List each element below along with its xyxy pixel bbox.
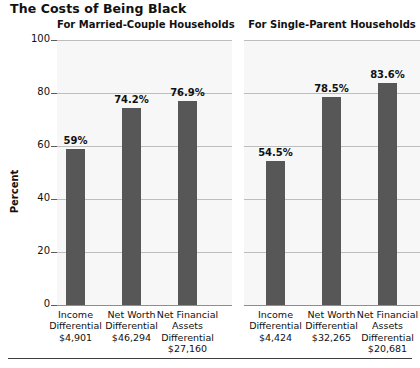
panel-subtitle-single: For Single-Parent Households — [244, 19, 420, 30]
x-axis-category-line: Income — [45, 309, 107, 320]
bar-value-label: 83.6% — [357, 69, 419, 80]
x-axis-category-line: Net Financial — [157, 309, 219, 320]
bar[interactable] — [378, 83, 397, 305]
x-axis-category-line: Differential — [45, 320, 107, 331]
y-tick-label-80: 80 — [14, 86, 50, 97]
x-axis-category-line: Differential — [157, 332, 219, 343]
x-axis-category-label: Net FinancialAssetsDifferential$20,681 — [357, 309, 419, 355]
x-axis-category-line: Differential — [301, 320, 363, 331]
bar[interactable] — [66, 149, 85, 305]
y-tick-label-100: 100 — [14, 33, 50, 44]
x-axis-category-line: $46,294 — [101, 332, 163, 343]
x-axis-category-line: Assets — [357, 320, 419, 331]
gridline-100 — [244, 40, 420, 41]
y-tick-label-0: 0 — [14, 298, 50, 309]
x-axis-category-line: Net Worth — [101, 309, 163, 320]
bottom-divider — [8, 358, 412, 359]
gridline-100 — [57, 40, 232, 41]
x-axis-category-line: Net Worth — [301, 309, 363, 320]
bar[interactable] — [178, 101, 197, 305]
x-axis-category-line: Differential — [245, 320, 307, 331]
x-axis-category-line: $4,901 — [45, 332, 107, 343]
chart-panel-married — [57, 40, 232, 305]
x-axis-category-line: $32,265 — [301, 332, 363, 343]
bar-value-label: 54.5% — [245, 147, 307, 158]
bar[interactable] — [122, 108, 141, 305]
bar-value-label: 76.9% — [157, 87, 219, 98]
x-axis-category-line: $27,160 — [157, 343, 219, 354]
x-axis-category-line: $20,681 — [357, 343, 419, 354]
bar[interactable] — [322, 97, 341, 305]
panel-subtitle-married: For Married-Couple Households — [57, 19, 232, 30]
bar-value-label: 78.5% — [301, 83, 363, 94]
bar-value-label: 59% — [45, 135, 107, 146]
y-tick-label-20: 20 — [14, 245, 50, 256]
x-axis-category-label: IncomeDifferential$4,424 — [245, 309, 307, 343]
x-axis-category-line: Differential — [357, 332, 419, 343]
y-tick-label-40: 40 — [14, 192, 50, 203]
gridline-0 — [57, 305, 232, 306]
x-axis-category-label: IncomeDifferential$4,901 — [45, 309, 107, 343]
bar[interactable] — [266, 161, 285, 305]
x-axis-category-line: Net Financial — [357, 309, 419, 320]
x-axis-category-line: Income — [245, 309, 307, 320]
x-axis-category-line: Differential — [101, 320, 163, 331]
x-axis-category-label: Net WorthDifferential$46,294 — [101, 309, 163, 343]
x-axis-category-label: Net FinancialAssetsDifferential$27,160 — [157, 309, 219, 355]
x-axis-category-line: $4,424 — [245, 332, 307, 343]
gridline-60 — [57, 146, 232, 147]
gridline-0 — [244, 305, 420, 306]
x-axis-category-line: Assets — [157, 320, 219, 331]
bar-value-label: 74.2% — [101, 94, 163, 105]
page-title: The Costs of Being Black — [10, 1, 186, 16]
x-axis-category-label: Net WorthDifferential$32,265 — [301, 309, 363, 343]
